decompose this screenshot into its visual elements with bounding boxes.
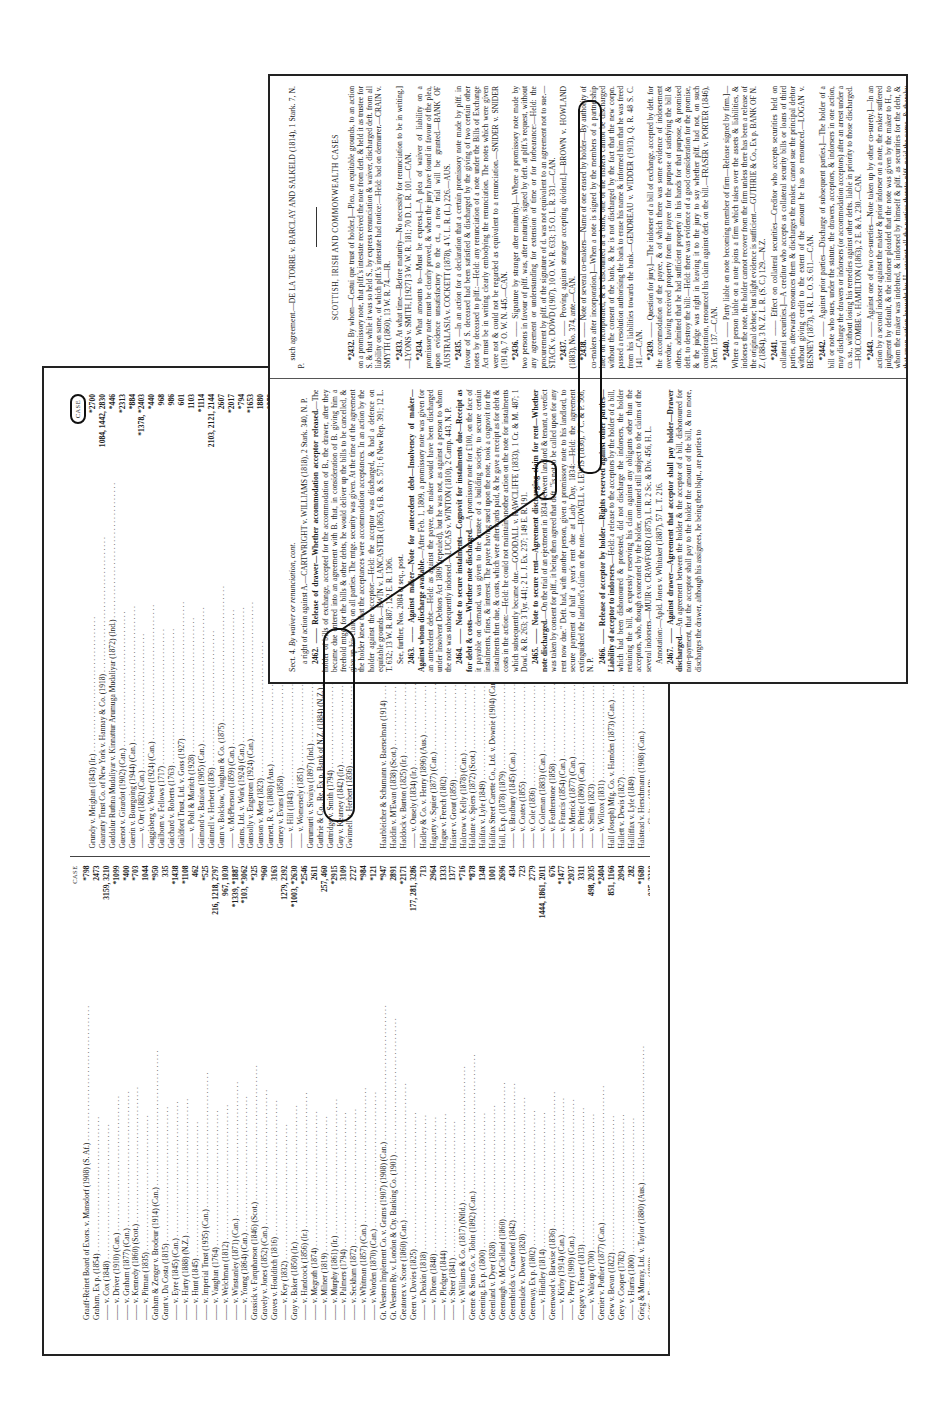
case-reference: *2313 — [118, 394, 128, 417]
case-reference: *798 — [82, 866, 92, 885]
case-name: Greenshields v. Crawford (1842) — [508, 1083, 518, 1320]
table-row: Griffin, Ex p. (1880)925, 2210 — [647, 866, 650, 1321]
case-number: *2436. — [511, 340, 520, 361]
case-name: Guddalur Ruthna Mudaliyar v. Kinnattur A… — [108, 483, 118, 849]
case-number: 2463. — [407, 647, 416, 664]
case-paragraph: 2466. —— Release of acceptor by holder—R… — [598, 390, 653, 673]
case-paragraph: a right of action against A.—CARTWRIGHT … — [300, 390, 309, 673]
case-name: —— v. Palmers (1794) — [339, 1113, 349, 1320]
case-name: Grant v. Da Costa (1815) — [161, 1107, 171, 1320]
case-reference: 2094 — [617, 866, 627, 885]
table-row: Greenough v. McClelland (1860)2696 — [498, 866, 508, 1321]
case-paragraph: 2467. —— Against drawer—Agreement that a… — [666, 390, 703, 673]
case-name: —— v. Deakin (1818) — [419, 1115, 429, 1320]
case-reference: *878 — [468, 866, 478, 885]
case-name: —— v. Murphy (1861) (Ir.) — [330, 1099, 340, 1320]
case-text: —— Party liable on note becoming member … — [722, 86, 768, 369]
table-row: —— v. Harty (1888) (N.Z.)*1108 — [181, 866, 191, 1321]
case-name: —— v. Hunt (1845) — [191, 1122, 201, 1320]
case-reference: 925, 2210 — [647, 866, 650, 900]
table-row: —— v. Walcup (1700)498, 2035 — [587, 866, 597, 1321]
case-text: —— Question for jury.]—The indorser of a… — [646, 86, 719, 369]
table-row: Gt. Western Ry. v. London & Cty. Banking… — [389, 866, 399, 1321]
case-text: —An agreement between the holder & the a… — [675, 390, 702, 673]
case-number: 2464. — [455, 647, 464, 664]
case-reference: *2037 — [567, 866, 577, 889]
case-name: —— v. Harty (1888) (N.Z.) — [181, 1099, 191, 1320]
case-reference: *1680 — [637, 866, 647, 889]
case-name: —— v. Pledger (1844) — [439, 1114, 449, 1320]
case-name: Graaff-Reinet Board of Exors. v. Mansdor… — [82, 1006, 92, 1320]
table-row: Gray v. Baker (1850) (Ir.)*1003, *2630 — [290, 866, 300, 1321]
table-row: —— v. Williams & Co. (1817) (Nfld.)*716 — [458, 866, 468, 1321]
case-list: Graaff-Reinet Board of Exors. v. Mansdor… — [82, 866, 650, 1321]
case-name: Graham & Zenger v. Brodeur (1914) (Can.) — [151, 1051, 161, 1320]
case-reference: 2103, 2121, 2144 — [207, 394, 217, 451]
case-reference: 434 — [508, 866, 518, 881]
case-name: —— v. Handcock (1856) (Ir.) — [300, 1093, 310, 1320]
case-reference: 1103 — [187, 394, 197, 413]
case-text: —— Against prior parties—Discharge of su… — [818, 86, 864, 369]
case-paragraph: See, further, Nos. 2084 et seq., post. — [396, 390, 405, 673]
case-reference: 282 — [627, 866, 637, 881]
table-row: Graham, Ex p. (1854)2473 — [92, 866, 102, 1321]
table-row: —— v. Whitman (1857) (Can.)*984 — [359, 866, 369, 1321]
case-paragraph: 2463. —— Against maker—Note for antecede… — [407, 390, 453, 673]
table-row: Guddalur Ruthna Mudaliyar v. Kinnattur A… — [108, 394, 118, 849]
case-reference: 1044 — [141, 866, 151, 885]
case-name: Grassick v. Farquharson (1846) (Scot.) — [250, 1065, 260, 1320]
case-reference: *440 — [147, 394, 157, 413]
case-reference: 676 — [548, 866, 558, 881]
table-row: —— v. Palmers (1794)3109 — [339, 866, 349, 1321]
case-name: —— v. Whitman (1857) (Can.) — [359, 1088, 369, 1320]
case-name: Gunsolly v. Engstrom (1924) (Can.) — [246, 602, 256, 848]
case-reference: 968 — [157, 394, 167, 409]
case-number: *2432. — [347, 340, 356, 361]
case-paragraph: *2440. —— Party liable on note becoming … — [722, 86, 768, 369]
table-row: —— v. Driver (1910) (Can.)*1099 — [112, 866, 122, 1321]
case-reference: 1444, 1861, 2011 — [538, 866, 548, 923]
case-reference: *950 — [151, 866, 161, 885]
case-text: —The holder of bills of exchange, accept… — [311, 390, 394, 673]
commonwealth-cases-heading: SCOTTISH, IRISH AND COMMONWEALTH CASES — [331, 86, 340, 369]
table-row: Greene & Sons Co. v. Tobin (1892) (Can.)… — [468, 866, 478, 1321]
case-paragraph: *2437. —— Proving against stranger accep… — [559, 86, 577, 369]
case-name: —— v. Eyre (1845) (Can.) — [171, 1102, 181, 1320]
case-name: —— v. Imperial Trust (1935) (Can.) — [201, 1073, 211, 1320]
table-row: Graham & Zenger v. Brodeur (1914) (Can.)… — [151, 866, 161, 1321]
case-name: —— v. Orr (1882) (Can.) — [137, 634, 147, 849]
case-name: —— v. Vaughan (1764) — [211, 1111, 221, 1320]
case-reference: 2891 — [389, 866, 399, 885]
table-row: —— v. Perry (1909) (Can.)*2037 — [567, 866, 577, 1321]
table-row: —— v. Imperial Trust (1935) (Can.)*525 — [201, 866, 211, 1321]
table-row: Gravely v. Jones (1852) (Can.)*960 — [260, 866, 270, 1321]
case-number: 2466. — [598, 647, 607, 664]
case-name: Guildford Trust, Ltd. v. Goss (1927) — [177, 602, 187, 849]
case-reference: 2607 — [217, 394, 227, 413]
table-row: —— v. Murphy (1861) (Ir.)*2915 — [330, 866, 340, 1321]
table-row: Greatorex v. Score (1860) (Can.)*2171 — [399, 866, 409, 1321]
table-row: —— v. Worden (1870) (Can.)*121 — [369, 866, 379, 1321]
case-text: What amounts to—Must be express.]—A plea… — [415, 86, 452, 369]
case-name: —— v. Steer (1841) — [448, 1121, 458, 1320]
case-name: Greatorex v. Score (1860) (Can.) — [399, 1083, 409, 1320]
case-text: Annotation:—Apld. Jones v. Whitaker (188… — [655, 482, 664, 664]
case-name: —— v. Harris (1800) — [627, 1118, 637, 1320]
case-reference: *2171 — [399, 866, 409, 889]
case-reference: *1378, *2403 — [137, 394, 147, 440]
table-row: Guinnell v. Herbert (1836)2103, 2121, 21… — [207, 394, 217, 849]
case-reference: 3159, 3210 — [102, 866, 112, 904]
case-name: Greenough v. McClelland (1860) — [498, 1083, 508, 1320]
case-reference: *1114 — [197, 394, 207, 416]
case-name: —— v. Cox (1848) — [102, 1124, 112, 1320]
case-name: Greenslade v. Dower (1828) — [518, 1097, 528, 1320]
case-text: a right of action against A.—CARTWRIGHT … — [300, 398, 309, 664]
table-row: Guerin v. Bourgoing (1944) (Can.)*884 — [128, 394, 138, 849]
highlight-oval-case-number — [535, 460, 557, 500]
table-row: Greenslade v. Dower (1828)723 — [518, 866, 528, 1321]
case-number: *2442. — [818, 340, 827, 361]
case-name: —— v. Perry (1909) (Can.) — [567, 1099, 577, 1320]
case-reference: *2700 — [88, 394, 98, 417]
table-row: —— v. Deakin (1818)713 — [419, 866, 429, 1321]
case-headnote: —— Release of drawer—Whether accommodati… — [311, 409, 320, 643]
